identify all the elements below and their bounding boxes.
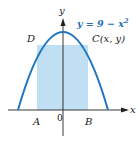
point-d-label: D — [26, 33, 35, 44]
origin-label: 0 — [57, 113, 63, 123]
inscribed-rectangle — [37, 45, 88, 110]
point-b-label: B — [84, 116, 92, 127]
point-a-label: A — [32, 116, 40, 127]
y-axis-label: y — [58, 5, 65, 16]
equation-label: y = 9 − x2 — [76, 17, 129, 29]
x-axis-arrow-icon — [121, 108, 129, 113]
point-c-label: C(x, y) — [92, 33, 125, 44]
y-axis-arrow-icon — [61, 18, 66, 26]
x-axis-label: x — [130, 104, 136, 115]
parabola-diagram: y x y = 9 − x2 D C(x, y) A B 0 — [0, 0, 139, 141]
